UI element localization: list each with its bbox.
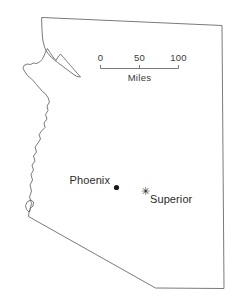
arizona-state-outline (23, 18, 224, 289)
arizona-locator-map: 0 50 100 Miles Phoenix ✳ Superior (0, 0, 234, 305)
scale-label-50: 50 (134, 52, 145, 63)
scale-label-0: 0 (98, 52, 103, 63)
map-canvas: 0 50 100 Miles Phoenix ✳ Superior (0, 0, 234, 305)
city-marker-superior-star: ✳ (141, 185, 150, 197)
city-label-superior: Superior (150, 193, 193, 205)
scale-unit-label: Miles (128, 72, 152, 83)
scale-label-100: 100 (170, 52, 186, 63)
city-label-phoenix: Phoenix (70, 174, 111, 186)
city-marker-phoenix-dot (114, 185, 119, 190)
